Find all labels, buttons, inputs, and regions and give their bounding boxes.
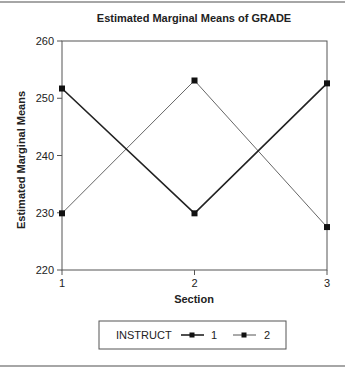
series-line [62,81,327,228]
chart-title: Estimated Marginal Means of GRADE [97,12,291,24]
series-layer [59,78,330,231]
legend-title: INSTRUCT [116,329,172,341]
plot-frame [62,41,327,270]
x-axis-title: Section [174,293,214,305]
chart-container: Estimated Marginal Means of GRADE Estima… [0,0,345,369]
x-tick-label: 2 [191,277,197,289]
y-tick-label: 250 [36,92,54,104]
legend-label-2: 2 [264,329,270,341]
legend-marker-1-icon [190,333,195,338]
series-2 [59,78,330,231]
y-axis-ticks: 220230240250260 [36,35,62,276]
legend: INSTRUCT 1 2 [99,321,286,349]
line-chart: Estimated Marginal Means of GRADE Estima… [0,0,345,369]
data-point-square-icon [192,210,198,216]
data-point-square-icon [192,78,198,84]
y-tick-label: 260 [36,35,54,47]
x-axis-ticks: 123 [59,270,330,289]
series-line [62,83,327,213]
data-point-square-icon [324,224,330,230]
legend-label-1: 1 [211,329,217,341]
x-tick-label: 3 [324,277,330,289]
x-tick-label: 1 [59,277,65,289]
y-tick-label: 230 [36,207,54,219]
y-tick-label: 240 [36,150,54,162]
y-tick-label: 220 [36,264,54,276]
data-point-square-icon [59,210,65,216]
y-axis-title: Estimated Marginal Means [15,91,27,229]
data-point-square-icon [324,80,330,86]
data-point-square-icon [59,86,65,92]
legend-marker-2-icon [242,333,247,338]
series-1 [59,80,330,216]
